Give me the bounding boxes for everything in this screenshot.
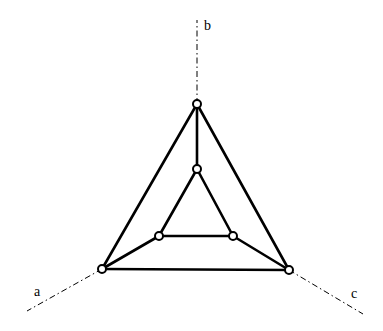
edge-outer-top-right: [197, 104, 289, 270]
diagram-canvas: b a c: [0, 0, 383, 331]
node-inner-right: [229, 232, 237, 240]
node-inner-top: [193, 165, 201, 173]
node-outer-top: [193, 100, 201, 108]
label-b: b: [204, 19, 211, 33]
edge-inner-top-right: [197, 169, 233, 236]
label-c: c: [351, 287, 357, 301]
prism-graph: [0, 0, 383, 331]
node-inner-left: [155, 232, 163, 240]
node-outer-right: [285, 266, 293, 274]
edge-inner-top-left: [159, 169, 197, 236]
label-a: a: [34, 285, 40, 299]
edge-outer-bottom: [102, 269, 289, 270]
edge-outer-top-left: [102, 104, 197, 269]
node-outer-left: [98, 265, 106, 273]
